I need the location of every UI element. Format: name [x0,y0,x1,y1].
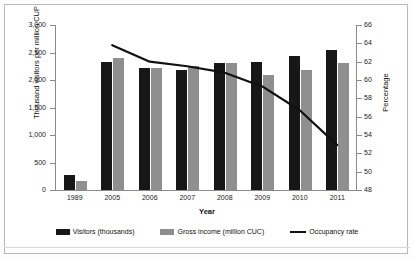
y-axis-left-tick-label: 1,000 [6,131,46,138]
bar-gross-income [263,75,274,190]
bar-group [212,25,238,190]
chart-figure: Thousand visitors per million CUP Percen… [0,0,414,260]
y-axis-right-tick-label: 52 [364,149,386,156]
y-axis-right-tick [357,43,362,44]
y-axis-right-line [356,25,357,191]
x-axis-tick-label: 2008 [205,194,245,202]
bar-group [287,25,313,190]
y-axis-right-tick [357,153,362,154]
y-axis-left-tick-label: 1,500 [6,104,46,111]
y-axis-right-tick-label: 56 [364,113,386,120]
x-axis-tick-label: 2005 [92,194,132,202]
y-axis-left-tick [50,190,55,191]
y-axis-left-tick-label: 3,000 [6,21,46,28]
bar-group [324,25,350,190]
y-axis-right-tick-label: 54 [364,131,386,138]
x-axis-tick-label: 2011 [317,194,357,202]
legend-item-occupancy-rate: Occupancy rate [290,228,358,235]
bar-gross-income [113,58,124,190]
legend-label-visitors: Visitors (thousands) [73,228,135,235]
y-axis-right-tick [357,172,362,173]
bar-visitors [289,56,300,190]
y-axis-right-tick-label: 64 [364,39,386,46]
black-bar-swatch-icon [56,229,70,235]
legend-item-gross-income: Gross income (million CUC) [160,228,264,235]
bar-group [249,25,275,190]
bar-group [174,25,200,190]
bar-group [137,25,163,190]
y-axis-left-tick [50,135,55,136]
y-axis-left-tick-label: 2,000 [6,76,46,83]
legend-item-visitors: Visitors (thousands) [56,228,135,235]
y-axis-right-tick [357,98,362,99]
bar-visitors [176,70,187,190]
bar-gross-income [301,70,312,190]
x-axis-tick-label: 2010 [280,194,320,202]
bar-gross-income [338,63,349,190]
y-axis-right-tick [357,25,362,26]
y-axis-right-tick-label: 60 [364,76,386,83]
y-axis-left-tick [50,53,55,54]
y-axis-left-tick [50,163,55,164]
y-axis-left-tick [50,25,55,26]
y-axis-right-tick [357,117,362,118]
y-axis-right-tick-label: 58 [364,94,386,101]
legend-label-gross-income: Gross income (million CUC) [177,228,264,235]
x-axis-tick-label: 2009 [242,194,282,202]
bar-gross-income [188,66,199,190]
bar-visitors [139,68,150,190]
bar-group [62,25,88,190]
bar-visitors [251,62,262,190]
bar-gross-income [226,63,237,190]
legend-separator [4,247,410,248]
black-line-swatch-icon [290,231,306,233]
bar-visitors [214,63,225,190]
x-axis-title: Year [0,207,414,216]
bar-gross-income [151,68,162,190]
bar-visitors [326,50,337,190]
chart-legend: Visitors (thousands) Gross income (milli… [4,228,410,235]
y-axis-left-tick-label: 2,500 [6,49,46,56]
y-axis-right-tick [357,80,362,81]
bar-visitors [64,175,75,190]
x-axis-line [55,190,357,191]
y-axis-right-tick-label: 62 [364,58,386,65]
y-axis-right-tick [357,135,362,136]
legend-label-occupancy-rate: Occupancy rate [309,228,358,235]
x-axis-tick-label: 1989 [55,194,95,202]
bar-visitors [101,62,112,190]
gray-bar-swatch-icon [160,229,174,235]
plot-area [56,25,356,190]
y-axis-right-tick [357,190,362,191]
y-axis-right-tick-label: 50 [364,168,386,175]
bar-gross-income [76,181,87,190]
y-axis-right-tick-label: 48 [364,186,386,193]
y-axis-right-tick [357,62,362,63]
y-axis-left-tick-label: 0 [6,186,46,193]
bar-group [99,25,125,190]
y-axis-left-tick [50,80,55,81]
x-axis-tick-label: 2006 [130,194,170,202]
y-axis-left-tick [50,108,55,109]
y-axis-right-tick-label: 66 [364,21,386,28]
x-axis-tick-label: 2007 [167,194,207,202]
y-axis-left-tick-label: 500 [6,159,46,166]
